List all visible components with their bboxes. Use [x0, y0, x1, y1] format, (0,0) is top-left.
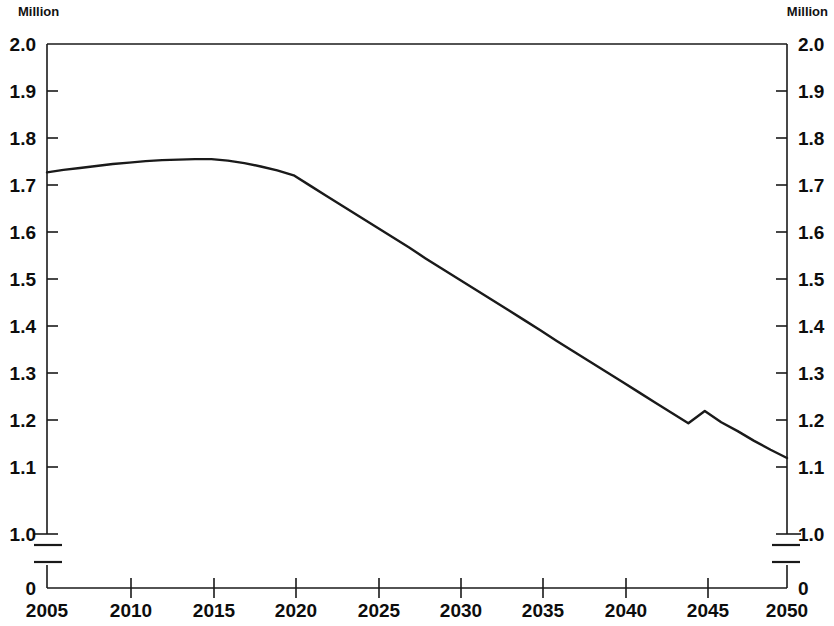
- x-tick-2035: 2035: [495, 601, 591, 620]
- y-tick-right-1-7: 1.7: [798, 176, 824, 195]
- y-axis-ticks: [33, 91, 801, 534]
- y-tick-right-1-4: 1.4: [798, 317, 824, 336]
- y-tick-right-1-6: 1.6: [798, 223, 824, 242]
- y-tick-left-1-4: 1.4: [0, 317, 36, 336]
- y-tick-right-1-5: 1.5: [798, 270, 824, 289]
- x-tick-2020: 2020: [248, 601, 344, 620]
- y-tick-left-1-3: 1.3: [0, 364, 36, 383]
- y-tick-right-1-8: 1.8: [798, 129, 824, 148]
- y-tick-right-1-9: 1.9: [798, 82, 824, 101]
- y-tick-left-1-8: 1.8: [0, 129, 36, 148]
- population-series-line: [47, 159, 787, 458]
- y-tick-right-1-1: 1.1: [798, 458, 824, 477]
- y-tick-left-1-0: 1.0: [0, 525, 36, 544]
- y-tick-right-1-0: 1.0: [798, 525, 824, 544]
- plot-area: [0, 0, 834, 626]
- x-tick-2010: 2010: [83, 601, 179, 620]
- y-tick-left-1-7: 1.7: [0, 176, 36, 195]
- y-tick-left-1-9: 1.9: [0, 82, 36, 101]
- y-tick-right-0: 0: [798, 579, 809, 598]
- y-tick-left-1-5: 1.5: [0, 270, 36, 289]
- x-tick-2050: 2050: [739, 601, 834, 620]
- y-tick-left-1-2: 1.2: [0, 411, 36, 430]
- y-tick-right-2-0: 2.0: [798, 35, 824, 54]
- x-tick-2005: 2005: [0, 601, 95, 620]
- axis-break-marks: [34, 545, 800, 562]
- y-tick-right-1-3: 1.3: [798, 364, 824, 383]
- population-projection-chart: Million Million: [0, 0, 834, 626]
- y-tick-left-1-6: 1.6: [0, 223, 36, 242]
- y-tick-left-0: 0: [0, 579, 36, 598]
- y-tick-left-1-1: 1.1: [0, 458, 36, 477]
- axis-frame: [47, 44, 787, 588]
- y-tick-right-1-2: 1.2: [798, 411, 824, 430]
- y-tick-left-2-0: 2.0: [0, 35, 36, 54]
